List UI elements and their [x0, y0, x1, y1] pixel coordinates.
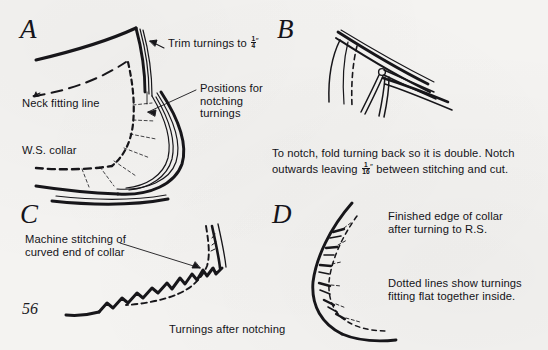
caption-panel-b-line1: To notch, fold turning back so it is dou…: [272, 147, 515, 159]
panel-b-drawing: [329, 30, 452, 117]
label-trim-turnings-text: Trim turnings to: [168, 37, 250, 49]
label-finished-edge: Finished edge of collar after turning to…: [388, 210, 503, 235]
panel-letter-d: D: [272, 199, 292, 230]
illustration-page: A B C D Trim turnings to 14″ Neck fittin…: [0, 0, 548, 350]
caption-panel-b-line2a: outwards leaving: [272, 163, 361, 175]
label-machine-stitching: Machine stitching of curved end of colla…: [25, 233, 126, 258]
panel-letter-b: B: [277, 14, 294, 45]
inch-mark: ″: [256, 36, 259, 45]
label-neck-fitting-line: Neck fitting line: [22, 97, 100, 110]
label-dotted-lines: Dotted lines show turnings fitting flat …: [388, 277, 522, 302]
label-positions-for-notching: Positions for notching turnings: [200, 82, 263, 120]
caption-panel-b-line2b: between stitching and cut.: [373, 163, 508, 175]
label-ws-collar: W.S. collar: [22, 144, 77, 157]
page-number: 56: [22, 300, 38, 318]
caption-panel-b: To notch, fold turning back so it is dou…: [272, 146, 544, 176]
fraction-one-quarter: 14: [251, 36, 256, 50]
panel-a-drawing: [33, 28, 196, 194]
fraction-one-sixteenth: 116: [362, 162, 370, 176]
panel-letter-c: C: [20, 199, 38, 230]
panel-letter-a: A: [20, 14, 37, 45]
panel-d-drawing: [313, 203, 396, 341]
label-trim-turnings: Trim turnings to 14″: [168, 35, 259, 50]
label-turnings-after-notching: Turnings after notching: [169, 323, 285, 336]
